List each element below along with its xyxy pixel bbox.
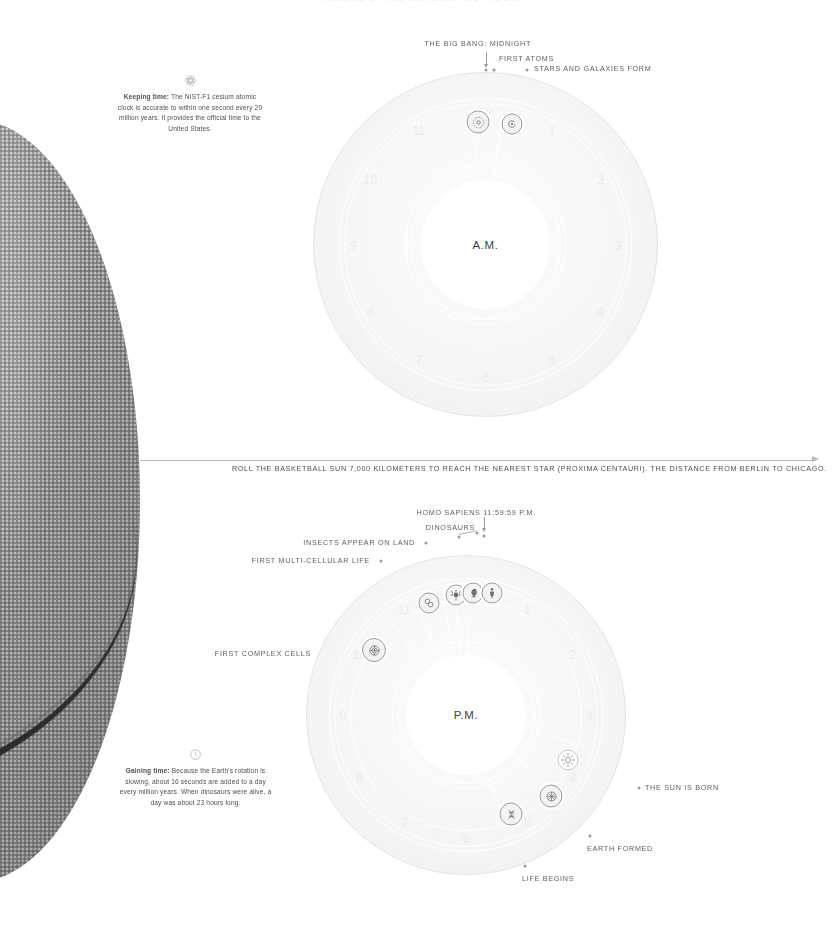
am-hour-4: 4 [597, 303, 604, 318]
pm-event-label-insects: INSECTS APPEAR ON LAND [303, 538, 415, 547]
pm-event-dot-dinosaurs-2 [476, 532, 479, 535]
big-bang-arrowhead [484, 64, 488, 68]
pm-event-dot-life-begins [524, 865, 527, 868]
am-hour-10: 10 [363, 171, 377, 186]
homo-sapiens-arrowhead [482, 528, 486, 532]
life-molecule-icon[interactable] [500, 803, 523, 826]
clock-icon [189, 748, 202, 761]
pm-hour-1: 1 [524, 601, 531, 616]
pm-hour-6: 6 [462, 831, 469, 846]
pm-event-label-complex-cells: FIRST COMPLEX CELLS [215, 649, 311, 658]
am-event-dot-first-atoms [493, 69, 496, 72]
pm-hour-5: 5 [524, 814, 531, 829]
pm-hour-7: 7 [401, 814, 408, 829]
am-event-label-big-bang: THE BIG BANG: MIDNIGHT [425, 39, 532, 48]
divider-arrowhead [812, 456, 819, 462]
pm-hour-8: 8 [356, 769, 363, 784]
am-event-label-stars-galaxies: STARS AND GALAXIES FORM [534, 64, 651, 73]
pm-hour-9: 9 [339, 708, 346, 723]
am-hour-8: 8 [367, 303, 374, 318]
cell-division-icon[interactable] [419, 593, 440, 614]
earth-icon[interactable] [540, 785, 563, 808]
pm-clock-hub-label: P.M. [454, 709, 479, 721]
dinosaur-icon[interactable] [463, 583, 484, 604]
pm-hour-2: 2 [569, 646, 576, 661]
divider-caption: ROLL THE BASKETBALL SUN 7,000 KILOMETERS… [232, 464, 827, 473]
am-hour-2: 2 [597, 171, 604, 186]
pm-hour-3: 3 [585, 708, 592, 723]
pm-event-label-dinosaurs: DINOSAURS [426, 523, 475, 532]
human-figure-icon[interactable] [482, 583, 503, 604]
pm-event-label-homo-sapiens: HOMO SAPIENS 11:59:59 P.M. [416, 508, 536, 517]
galaxy-spiral-icon[interactable] [502, 114, 523, 135]
pm-event-dot-dinosaurs [458, 536, 461, 539]
pm-event-dot-insects [425, 542, 428, 545]
gaining-time-note-lead: Gaining time: [126, 767, 170, 774]
pm-clock: 12 1 2 3 4 5 6 7 8 9 10 11 P.M. [306, 555, 626, 875]
page-title: A TIMELINE OF THE UNIVERSE IN 24 HOURS [0, 0, 833, 3]
atom-icon[interactable] [467, 111, 490, 134]
gaining-time-note: Gaining time: Because the Earth's rotati… [118, 748, 273, 809]
pm-event-dot-earth-formed [589, 835, 592, 838]
nist-note: Keeping time: The NIST-F1 cesium atomic … [115, 74, 265, 135]
am-clock-hub: A.M. [421, 180, 550, 309]
am-hour-7: 7 [415, 352, 422, 367]
complex-cell-icon[interactable] [362, 638, 386, 662]
pm-hour-4: 4 [569, 769, 576, 784]
pm-event-label-sun-born: THE SUN IS BORN [645, 783, 719, 792]
am-hour-6: 6 [482, 370, 489, 385]
am-hour-1: 1 [548, 122, 555, 137]
pm-event-label-earth-formed: EARTH FORMED [587, 844, 653, 853]
pm-event-label-multicellular: FIRST MULTI-CELLULAR LIFE [252, 556, 370, 565]
am-event-dot-stars-galaxies [526, 69, 529, 72]
atomic-clock-icon [184, 74, 197, 87]
pm-event-dot-multicellular [380, 560, 383, 563]
am-hour-9: 9 [349, 237, 356, 252]
am-clock: 12 1 2 3 4 5 6 7 8 9 10 11 A.M. [313, 72, 658, 417]
am-clock-hub-label: A.M. [472, 239, 498, 251]
nist-note-lead: Keeping time: [124, 93, 169, 100]
sun-icon[interactable] [558, 750, 579, 771]
divider-line [140, 460, 815, 461]
pm-clock-hub: P.M. [406, 655, 526, 775]
pm-event-label-life-begins: LIFE BEGINS [522, 874, 574, 883]
pm-event-dot-sun-born [638, 787, 641, 790]
am-event-label-first-atoms: FIRST ATOMS [499, 54, 554, 63]
am-hour-11: 11 [412, 122, 426, 137]
am-hour-5: 5 [548, 352, 555, 367]
pm-event-dot-homo-sapiens [483, 535, 486, 538]
am-hour-3: 3 [614, 237, 621, 252]
